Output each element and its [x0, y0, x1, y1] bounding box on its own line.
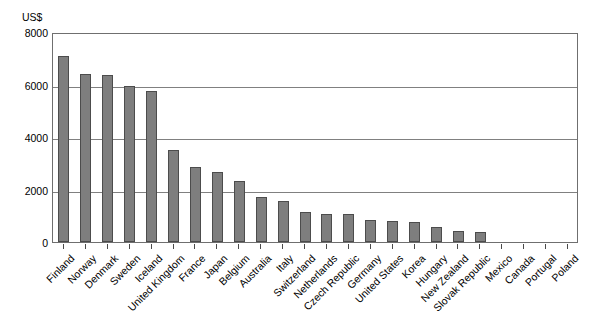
x-axis-tick	[348, 244, 349, 249]
bar	[212, 172, 223, 242]
x-axis-tick	[545, 244, 546, 249]
bar	[475, 232, 486, 242]
x-axis-tick	[238, 244, 239, 249]
bar	[146, 91, 157, 242]
bar	[343, 214, 354, 242]
x-axis-tick	[304, 244, 305, 249]
x-axis-tick	[151, 244, 152, 249]
bar	[234, 181, 245, 242]
x-axis-tick	[194, 244, 195, 249]
x-axis-tick	[129, 244, 130, 249]
y-axis-tick-label: 0	[2, 237, 48, 249]
bar	[321, 214, 332, 242]
bar	[409, 222, 420, 242]
chart-container: US$ 80006000400020000 FinlandNorwayDenma…	[0, 0, 593, 316]
x-axis-tick	[457, 244, 458, 249]
x-axis-tick	[567, 244, 568, 249]
bar	[387, 221, 398, 242]
x-axis-tick	[85, 244, 86, 249]
x-axis-tick	[392, 244, 393, 249]
y-axis-tick-label: 6000	[2, 80, 48, 92]
x-axis-tick	[501, 244, 502, 249]
x-axis-tick	[414, 244, 415, 249]
y-axis-unit-label: US$	[22, 11, 42, 23]
bar	[190, 167, 201, 242]
bar	[256, 197, 267, 242]
x-axis-tick	[326, 244, 327, 249]
bar	[300, 212, 311, 242]
bar	[453, 231, 464, 242]
bar	[168, 150, 179, 242]
y-axis-tick-label: 4000	[2, 132, 48, 144]
y-axis-tick-labels: 80006000400020000	[0, 33, 48, 243]
y-axis-tick-label: 8000	[2, 27, 48, 39]
x-axis-tick	[173, 244, 174, 249]
x-axis-tick	[216, 244, 217, 249]
bar	[102, 75, 113, 242]
x-axis-tick	[260, 244, 261, 249]
bar	[431, 227, 442, 242]
plot-area	[52, 33, 578, 243]
x-axis-tick	[282, 244, 283, 249]
bar	[365, 220, 376, 242]
x-axis-tick	[63, 244, 64, 249]
x-axis-tick	[370, 244, 371, 249]
bar	[278, 201, 289, 242]
bar	[80, 74, 91, 242]
x-axis-tick	[479, 244, 480, 249]
x-axis-tick	[523, 244, 524, 249]
y-axis-tick-label: 2000	[2, 185, 48, 197]
bar	[58, 56, 69, 242]
x-axis-tick	[107, 244, 108, 249]
x-axis-tick	[436, 244, 437, 249]
bar	[124, 86, 135, 242]
